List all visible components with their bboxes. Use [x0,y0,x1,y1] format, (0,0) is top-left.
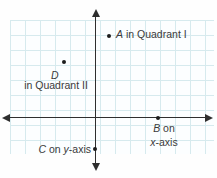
point-d-dot [62,60,66,64]
point-b-label-on: on [160,122,175,134]
x-axis-right-arrowhead-icon [205,114,213,122]
y-axis-down-arrowhead-icon [92,163,100,171]
point-d-label-text: in Quadrant II [14,80,98,91]
y-axis-up-arrowhead-icon [92,9,100,17]
x-axis-left-arrowhead-icon [2,114,10,122]
coordinate-plane-figure: A in Quadrant I D in Quadrant II B on x-… [0,0,217,178]
point-b-label-line1: B on [144,122,184,136]
point-b-label: B on x-axis [144,122,184,149]
point-b-dot [156,116,160,120]
point-b-label-line2: x-axis [144,136,184,150]
point-a-dot [107,34,111,38]
point-c-variable: C [38,143,46,155]
point-a-label: A in Quadrant I [116,29,187,40]
point-a-label-text: in Quadrant I [123,28,187,40]
point-c-label-on: on [46,143,64,155]
point-c-axis-suffix: -axis [69,143,91,155]
point-c-dot [93,147,97,151]
point-c-label: C on y-axis [38,144,91,155]
point-b-axis-suffix: -axis [156,136,178,148]
point-a-variable: A [116,28,123,40]
